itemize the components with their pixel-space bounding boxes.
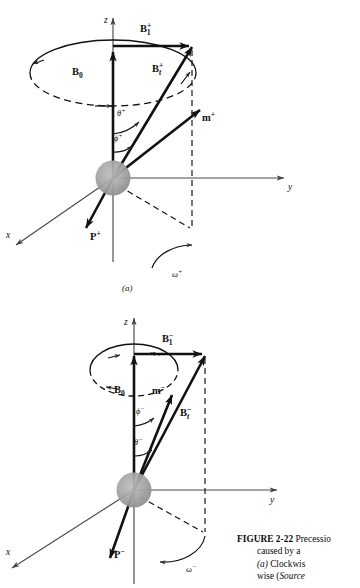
x-axis-label: x (5, 230, 11, 240)
projection-diagonal (119, 186, 190, 228)
caption-line1-rest: Precessio (295, 534, 331, 544)
caption-source-word: Source (279, 571, 304, 581)
b0-label: B0 (114, 384, 125, 398)
z-axis-label: z (103, 15, 108, 25)
m-label: m− (152, 383, 165, 396)
theta-label: θ− (134, 436, 142, 447)
projection-diagonal (140, 497, 203, 532)
omega-arrow (160, 536, 205, 562)
phi-arc (134, 418, 154, 426)
bt-label: B−t (180, 405, 191, 422)
p-label: P+ (90, 229, 101, 242)
ellipse-arrow-right (181, 72, 190, 84)
panel-a-letter: (a) (122, 283, 133, 293)
p-label: P− (114, 547, 125, 560)
caption-line4-pre: wise ( (257, 571, 279, 581)
caption-figure-word: FIGURE (237, 534, 273, 544)
origin-sphere (117, 473, 152, 508)
omega-label: ω− (186, 563, 196, 574)
panel-a-diagram: z y x B0 B+1 B+t m+ P+ (0, 0, 360, 300)
omega-label: ω+ (172, 268, 182, 279)
ellipse-arrow-top (108, 355, 120, 358)
phi-label: ϕ− (136, 405, 145, 416)
b1-label: B−1 (162, 331, 173, 347)
b1-label: B+1 (140, 21, 151, 37)
caption-figure-number: 2-22 (276, 534, 293, 544)
caption-line-4: wise (Source (257, 570, 360, 582)
figure-2-22: z y x B0 B+1 B+t m+ P+ (0, 0, 360, 588)
b0-label: B0 (72, 66, 83, 80)
theta-arc (113, 122, 139, 134)
z-axis-label: z (123, 317, 128, 327)
phi-label: ϕ+ (114, 132, 123, 143)
figure-caption: FIGURE 2-22 Precessio caused by a (a) Cl… (237, 533, 360, 588)
bt-label: B+t (152, 61, 163, 78)
m-label: m+ (202, 110, 215, 123)
y-axis-label: y (287, 182, 293, 192)
caption-line-2: caused by a (257, 545, 360, 557)
theta-label: θ+ (117, 107, 125, 118)
x-axis-label: x (5, 547, 11, 557)
origin-sphere (96, 161, 131, 196)
caption-panel-ref-a: (a) (257, 559, 268, 569)
caption-line-3: (a) Clockwis (257, 558, 360, 570)
y-axis-label: y (269, 495, 275, 505)
omega-arrow (152, 245, 192, 268)
caption-line-1: FIGURE 2-22 Precessio (237, 533, 360, 545)
caption-line3-rest: Clockwis (270, 559, 305, 569)
